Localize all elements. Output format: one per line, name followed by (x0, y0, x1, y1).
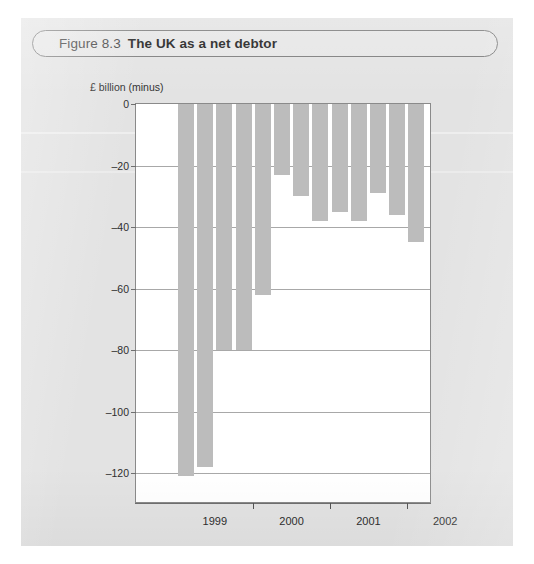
x-tick-label: 2001 (356, 515, 380, 527)
y-tick-mark (131, 412, 136, 413)
x-axis-line (135, 503, 431, 504)
bar (351, 104, 367, 221)
bar (274, 104, 290, 175)
y-tick-label: –120 (106, 467, 129, 479)
x-tick-mark (330, 503, 331, 509)
x-tick-label: 2000 (279, 515, 303, 527)
figure-page: Figure 8.3The UK as a net debtor £ billi… (0, 0, 534, 564)
y-tick-label: –100 (106, 406, 129, 418)
x-tick-label: 2002 (433, 515, 457, 527)
y-tick-label: –60 (111, 283, 129, 295)
y-axis-label: £ billion (minus) (90, 81, 164, 93)
bar (389, 104, 405, 215)
bar (236, 104, 252, 350)
bar (293, 104, 309, 196)
bar (408, 104, 424, 242)
y-tick-mark (131, 227, 136, 228)
x-tick-mark (407, 503, 408, 509)
y-tick-label: –80 (111, 344, 129, 356)
plot-area: 0–20–40–60–80–100–120 (135, 103, 431, 503)
scanned-page-panel: Figure 8.3The UK as a net debtor £ billi… (21, 18, 513, 546)
y-tick-mark (131, 473, 136, 474)
y-tick-label: 0 (123, 98, 129, 110)
y-tick-mark (131, 289, 136, 290)
y-tick-label: –20 (111, 160, 129, 172)
x-tick-mark (253, 503, 254, 509)
bar (255, 104, 271, 295)
y-tick-mark (131, 104, 136, 105)
bar (216, 104, 232, 350)
y-tick-mark (131, 350, 136, 351)
bar (332, 104, 348, 212)
y-tick-label: –40 (111, 221, 129, 233)
bar (178, 104, 194, 476)
bar (312, 104, 328, 221)
x-tick-label: 1999 (203, 515, 227, 527)
chart: £ billion (minus) 0–20–40–60–80–100–120 … (21, 18, 513, 546)
bar (197, 104, 213, 467)
bar (370, 104, 386, 193)
y-tick-mark (131, 166, 136, 167)
